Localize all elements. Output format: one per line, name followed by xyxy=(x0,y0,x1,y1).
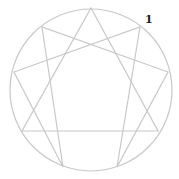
enneagram-diagram: 1 xyxy=(0,0,179,179)
outer-circle xyxy=(10,9,172,171)
point-label-1: 1 xyxy=(145,13,153,26)
enneagram-figure xyxy=(0,0,179,179)
hexad-lines xyxy=(14,27,168,167)
inner-triangle xyxy=(22,8,158,131)
